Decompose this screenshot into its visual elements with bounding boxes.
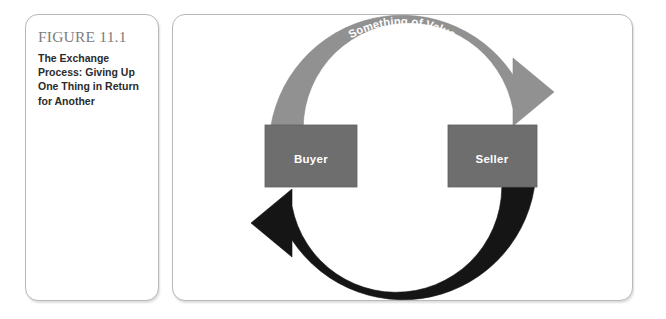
figure-caption: The Exchange Process: Giving Up One Thin… bbox=[38, 51, 150, 108]
node-seller-label: Seller bbox=[475, 153, 508, 165]
node-seller: Seller bbox=[448, 125, 537, 187]
node-buyer: Buyer bbox=[265, 125, 357, 187]
figure-screenshot: FIGURE 11.1 The Exchange Process: Giving… bbox=[0, 0, 666, 319]
exchange-process-diagram: Something of Value (money, credit, labor… bbox=[172, 14, 633, 301]
figure-number: FIGURE 11.1 bbox=[38, 28, 127, 46]
node-buyer-label: Buyer bbox=[294, 153, 328, 165]
caption-panel: FIGURE 11.1 The Exchange Process: Giving… bbox=[25, 14, 159, 301]
